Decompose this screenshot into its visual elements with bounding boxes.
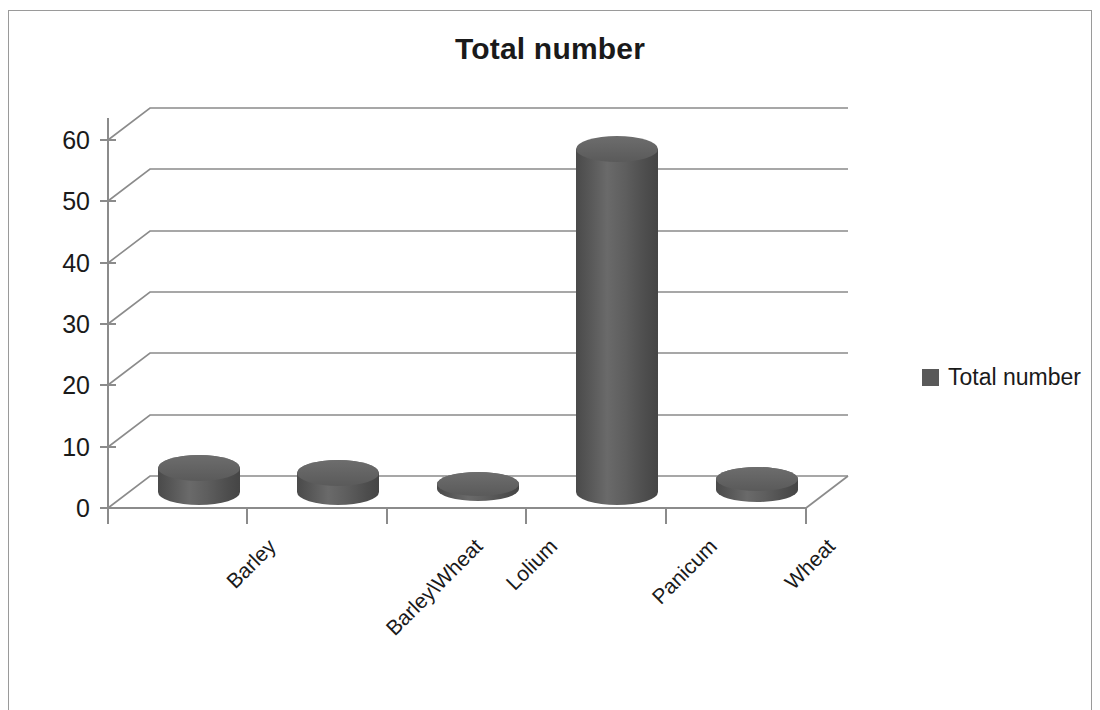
y-axis-label-50: 50 [32,189,90,214]
bar-barley[interactable] [158,455,240,505]
y-axis-label-10: 10 [32,435,90,460]
y-axis-label-40: 40 [32,251,90,276]
y-axis-label-30: 30 [32,312,90,337]
bar-barley-wheat[interactable] [297,460,379,505]
legend-swatch-total-number [922,369,939,386]
y-axis-label-60: 60 [32,128,90,153]
bar-wheat[interactable] [716,467,798,502]
chart-legend: Total number [922,366,1081,389]
bar-lolium[interactable] [437,472,519,501]
x-axis-ticks [108,508,806,524]
y-axis-label-20: 20 [32,373,90,398]
legend-label-total-number: Total number [948,366,1081,389]
bar-panicum[interactable] [576,136,658,505]
y-axis-label-0: 0 [32,496,90,521]
